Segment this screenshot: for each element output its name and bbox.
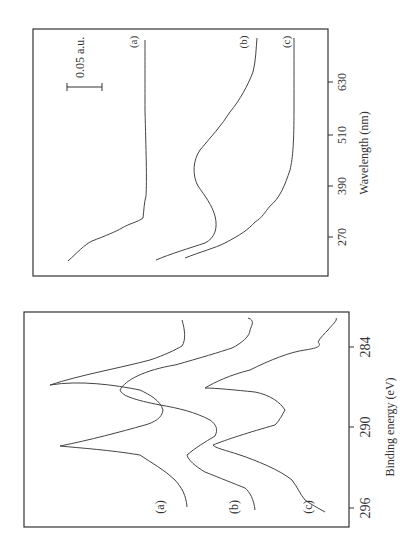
xps-label-b: (b) <box>227 500 241 514</box>
xps-series-a <box>50 320 187 507</box>
tick-label-284: 284 <box>358 337 373 358</box>
xps-series-b <box>120 318 255 510</box>
xps-series-c <box>205 318 336 512</box>
tick-label-390: 390 <box>335 177 349 195</box>
uv-vis-series-b <box>156 38 257 260</box>
scale-bar-label: 0.05 a.u. <box>73 37 87 78</box>
xps-label-a: (a) <box>153 500 167 513</box>
tick-label-296: 296 <box>358 498 373 519</box>
uv-vis-label-a: (a) <box>127 36 140 49</box>
uv-vis-chart: 270 390 510 630 Wavelength (nm) 0.05 a.u… <box>33 29 371 276</box>
tick-label-270: 270 <box>335 228 349 246</box>
xps-chart: 296 290 284 Binding energy (eV) (a) (b) … <box>24 312 397 527</box>
uv-vis-label-c: (c) <box>280 36 293 49</box>
scale-bar: 0.05 a.u. <box>67 37 102 91</box>
figure-canvas: 270 390 510 630 Wavelength (nm) 0.05 a.u… <box>0 0 410 558</box>
x-axis-label-wavelength: Wavelength (nm) <box>357 111 371 194</box>
xps-label-c: (c) <box>301 500 315 513</box>
uv-vis-label-b: (b) <box>237 35 250 48</box>
tick-label-510: 510 <box>335 126 349 144</box>
x-axis-label-binding-energy: Binding energy (eV) <box>383 377 397 476</box>
tick-label-630: 630 <box>335 73 349 91</box>
tick-label-290: 290 <box>358 417 373 438</box>
xps-plot-frame <box>24 312 349 527</box>
